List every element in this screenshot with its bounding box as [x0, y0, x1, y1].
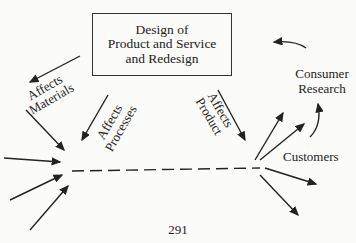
design-box: Design of Product and Service and Redesi… [92, 13, 232, 76]
label-customers: Customers [283, 149, 339, 164]
box-line-1: Design of [136, 23, 189, 38]
dashed-center-line [72, 168, 260, 171]
page-number: 291 [0, 222, 356, 238]
box-line-2: Product and Service [108, 37, 217, 52]
label-consumer-research: Consumer Research [287, 66, 356, 96]
diagram-canvas: Design of Product and Service and Redesi… [0, 0, 356, 243]
box-line-3: and Redesign [125, 52, 198, 67]
